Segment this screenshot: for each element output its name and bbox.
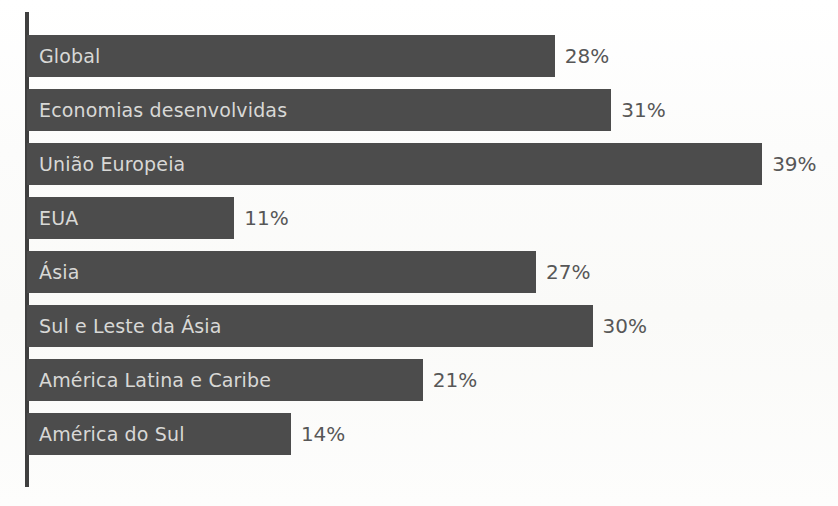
bar-category-label: União Europeia: [39, 143, 185, 185]
bar-value-label: 30%: [603, 305, 647, 347]
bar-value-label: 31%: [621, 89, 665, 131]
bar-category-label: EUA: [39, 197, 78, 239]
bar-value-label: 28%: [565, 35, 609, 77]
bar: [27, 35, 555, 77]
bar-category-label: Sul e Leste da Ásia: [39, 305, 222, 347]
bar-row: Sul e Leste da Ásia30%: [27, 305, 838, 347]
bar-category-label: Ásia: [39, 251, 79, 293]
bar-category-label: Economias desenvolvidas: [39, 89, 287, 131]
bar-row: Global28%: [27, 35, 838, 77]
bar: [27, 251, 536, 293]
bar-category-label: Global: [39, 35, 101, 77]
bar-value-label: 39%: [772, 143, 816, 185]
bar-value-label: 21%: [433, 359, 477, 401]
bar-row: União Europeia39%: [27, 143, 838, 185]
bar-row: Ásia27%: [27, 251, 838, 293]
bar-row: Economias desenvolvidas31%: [27, 89, 838, 131]
bar-category-label: América do Sul: [39, 413, 185, 455]
bar-row: América Latina e Caribe21%: [27, 359, 838, 401]
bar-row: América do Sul14%: [27, 413, 838, 455]
bar-category-label: América Latina e Caribe: [39, 359, 271, 401]
bar-value-label: 11%: [244, 197, 288, 239]
plot-area: Global28%Economias desenvolvidas31%União…: [0, 0, 838, 506]
bar-value-label: 27%: [546, 251, 590, 293]
bar-value-label: 14%: [301, 413, 345, 455]
bar-row: EUA11%: [27, 197, 838, 239]
bar-chart: Global28%Economias desenvolvidas31%União…: [0, 0, 838, 506]
